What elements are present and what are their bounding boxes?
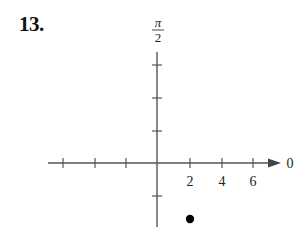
polar-plot: 2 4 6 0 π 2 xyxy=(0,0,299,227)
x-tick-label-2: 2 xyxy=(187,174,194,189)
vertical-axis-label-numerator: π xyxy=(155,15,162,30)
x-tick-label-4: 4 xyxy=(219,174,226,189)
polar-axis-arrow-icon xyxy=(268,159,281,168)
plotted-point xyxy=(186,215,194,223)
vertical-axis-label-denominator: 2 xyxy=(155,30,162,45)
x-tick-label-6: 6 xyxy=(250,174,257,189)
polar-axis-label: 0 xyxy=(287,156,294,171)
